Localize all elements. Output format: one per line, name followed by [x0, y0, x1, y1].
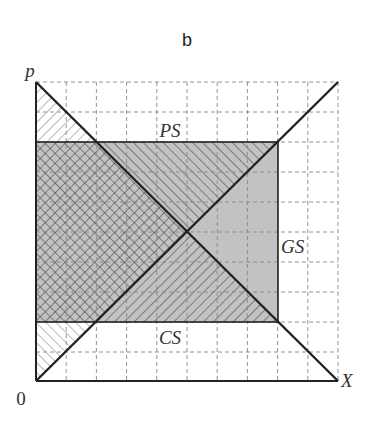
surplus-diagram: b [0, 0, 386, 433]
y-axis-label: p [23, 60, 35, 81]
gs-label: GS [281, 236, 305, 257]
cs-label: CS [159, 327, 182, 348]
x-axis-label: X [340, 370, 354, 391]
diagram-title: b [182, 30, 192, 50]
ps-label: PS [158, 120, 181, 141]
origin-label: 0 [16, 388, 26, 409]
